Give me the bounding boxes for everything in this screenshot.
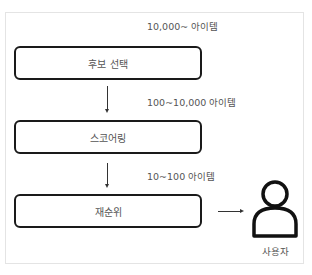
user-label: 사용자	[262, 244, 289, 258]
stage-reranking: 재순위	[14, 194, 202, 228]
arrow-down-icon	[105, 184, 109, 188]
stage-scoring: 스코어링	[14, 120, 202, 154]
user-icon	[250, 178, 302, 244]
arrow-down-icon	[105, 109, 109, 113]
stage-1-label: 후보 선택	[88, 56, 127, 71]
stage-1-count-label: 10,000~ 아이템	[147, 19, 218, 33]
stage-2-count-label: 100~10,000 아이템	[147, 95, 236, 109]
arrow-1-2-line	[107, 86, 108, 110]
stage-3-label: 재순위	[95, 204, 122, 219]
stage-candidate-selection: 후보 선택	[14, 46, 202, 80]
arrow-right-icon	[240, 209, 244, 213]
stage-3-count-label: 10~100 아이템	[147, 169, 215, 183]
arrow-2-3-line	[107, 163, 108, 185]
stage-2-label: 스코어링	[90, 130, 126, 145]
arrow-to-user-line	[218, 211, 240, 212]
